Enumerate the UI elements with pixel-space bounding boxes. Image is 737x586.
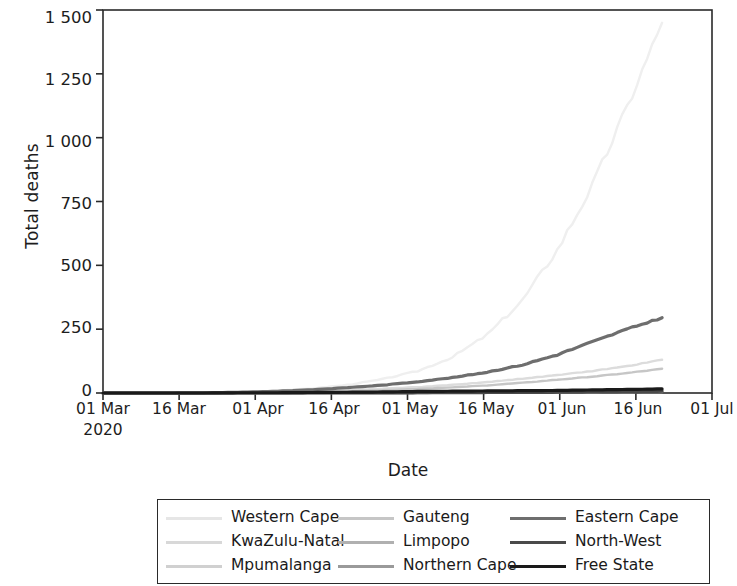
legend-line-swatch-icon xyxy=(166,541,222,544)
legend-line-swatch-icon xyxy=(510,541,566,544)
legend-line-swatch-icon xyxy=(510,517,566,520)
legend-line-swatch-icon xyxy=(166,517,222,520)
legend-item[interactable]: Gauteng xyxy=(338,506,510,530)
x-axis-title: Date xyxy=(103,460,713,480)
legend-entries: Western CapeGautengEastern CapeKwaZulu-N… xyxy=(166,506,706,578)
data-line-eastern-cape xyxy=(103,318,662,393)
legend-item-label: Free State xyxy=(575,558,654,574)
legend-item-label: Northern Cape xyxy=(403,558,516,574)
legend-item[interactable]: Western Cape xyxy=(166,506,338,530)
x-tick-label: 16 Mar xyxy=(134,400,224,418)
legend-line-swatch-icon xyxy=(166,565,222,568)
legend-item[interactable]: KwaZulu-Natal xyxy=(166,530,338,554)
data-line-western-cape xyxy=(103,23,662,393)
x-tick-text: 01 Mar xyxy=(76,400,130,418)
legend-item-label: Limpopo xyxy=(403,534,470,550)
legend-item-label: Mpumalanga xyxy=(231,558,332,574)
legend-item-label: Western Cape xyxy=(231,510,339,526)
legend-line-swatch-icon xyxy=(338,541,394,544)
legend-item[interactable]: Northern Cape xyxy=(338,554,510,578)
plot-frame xyxy=(103,10,712,393)
legend-item-label: North-West xyxy=(575,534,661,550)
plot-area xyxy=(0,0,723,400)
legend-item[interactable]: North-West xyxy=(510,530,690,554)
legend-line-swatch-icon xyxy=(510,565,566,568)
legend-item[interactable]: Mpumalanga xyxy=(166,554,338,578)
legend-item-label: KwaZulu-Natal xyxy=(231,534,344,550)
chart-legend: Western CapeGautengEastern CapeKwaZulu-N… xyxy=(157,499,710,584)
legend-line-swatch-icon xyxy=(338,517,394,520)
legend-item-label: Gauteng xyxy=(403,510,470,526)
legend-line-swatch-icon xyxy=(338,565,394,568)
legend-item[interactable]: Free State xyxy=(510,554,690,578)
legend-item-label: Eastern Cape xyxy=(575,510,679,526)
x-axis-year: 2020 xyxy=(58,421,148,439)
legend-item[interactable]: Eastern Cape xyxy=(510,506,690,530)
data-line-kwazulu-natal xyxy=(103,360,662,393)
x-tick-label: 01 Jul xyxy=(667,400,737,418)
legend-item[interactable]: Limpopo xyxy=(338,530,510,554)
